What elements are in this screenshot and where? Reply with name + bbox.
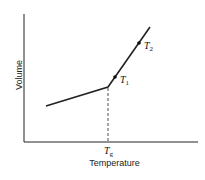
tg-label-sub: g <box>110 150 114 158</box>
diagram-canvas <box>0 0 205 180</box>
t1-point <box>113 75 117 79</box>
tg-label: Tg <box>104 145 113 158</box>
y-axis-label: Volume <box>14 60 24 90</box>
x-axis-label: Temperature <box>0 158 205 168</box>
t2-label-sub: 2 <box>150 45 154 53</box>
t1-label: T1 <box>120 74 129 87</box>
volume-curve <box>46 27 150 106</box>
t1-label-sub: 1 <box>126 79 130 87</box>
t2-label: T2 <box>144 40 153 53</box>
t2-point <box>137 41 141 45</box>
